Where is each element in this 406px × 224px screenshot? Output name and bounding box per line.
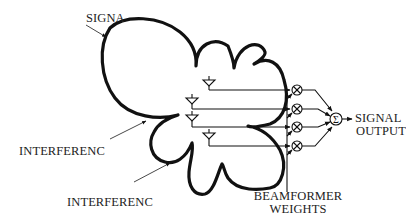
interference-label-1: INTERFERENC [19,145,105,158]
signal-output-label: SIGNAL OUTPUT [355,112,406,138]
summer-symbol: Σ [333,114,339,125]
beam-pattern [102,19,286,195]
antenna-array [186,76,290,146]
summer-inputs [302,90,332,146]
multiplier-4 [292,141,302,151]
multiplier-2 [292,104,302,114]
antenna-2 [186,94,290,109]
beamformer-line2: WEIGHTS [252,203,344,216]
multipliers [292,85,302,151]
multiplier-3 [292,122,302,132]
beamformer-weights-label: BEAMFORMER WEIGHTS [252,190,344,216]
signal-label: SIGNA [86,12,125,25]
antenna-1 [203,76,290,90]
signal-output-line2: OUTPUT [356,125,406,138]
antenna-3 [186,111,290,127]
summer: Σ [330,113,342,125]
interference-label-2: INTERFERENC [67,196,153,209]
multiplier-1 [292,85,302,95]
